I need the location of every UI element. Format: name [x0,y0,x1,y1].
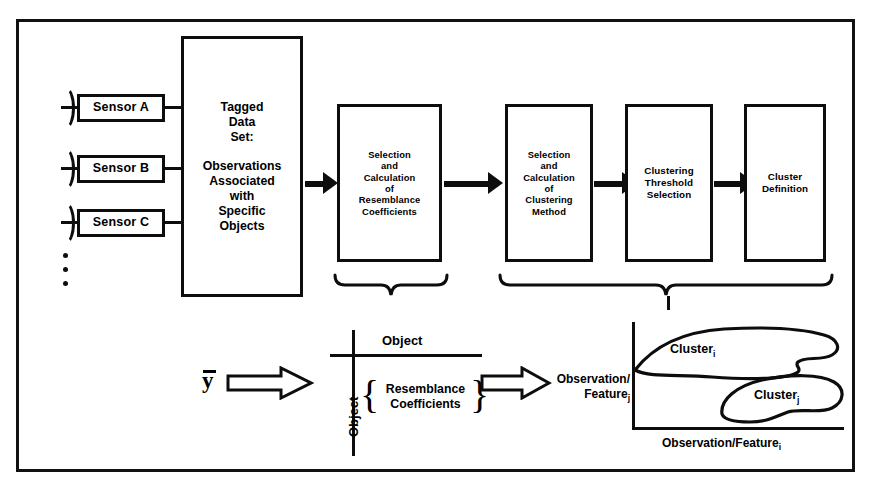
tagged-data-set-box[interactable]: Tagged Data Set: Observations Associated… [181,36,303,297]
matrix-vertical-axis [352,330,355,456]
brace-clustering-group [497,272,835,298]
proc2-line-5: Clustering [525,194,572,205]
sensor-box-c[interactable]: Sensor C [77,209,165,237]
sensor-ellipsis [63,253,68,286]
matrix-horizontal-axis [330,354,482,357]
cluster-j-text: Cluster [754,388,797,402]
cluster-label-j: Clusterj [754,388,799,405]
arrow-resemblance-to-method [444,172,504,194]
sensor-label-c: Sensor C [93,215,149,230]
cluster-i-text: Cluster [670,342,713,356]
outline-arrow-y-to-matrix [226,366,314,400]
plot-ylabel-line-2-wrap: Featurej [520,387,630,404]
proc1-line-3: Calculation [364,172,416,183]
tagged-line-2: Data [229,115,256,130]
brace-resemblance-group [332,272,450,298]
tagged-line-6: with [230,189,255,204]
proc2-line-6: Method [532,206,566,217]
tagged-line-1: Tagged [221,100,264,115]
proc1-line-1: Selection [368,149,411,160]
proc2-line-3: Calculation [523,172,575,183]
proc2-line-2: and [541,160,558,171]
tagged-line-8: Objects [219,219,264,234]
proc4-line-2: Definition [762,183,808,195]
proc1-line-6: Coefficients [362,206,417,217]
sensor-label-b: Sensor B [93,161,149,176]
vector-overbar-icon [203,370,216,373]
proc3-line-3: Selection [647,189,691,201]
cluster-blobs [632,322,847,432]
plot-ylabel-subscript: j [628,393,630,403]
matrix-side-label: Object [346,397,361,437]
proc3-line-2: Threshold [645,177,693,189]
plot-x-axis-label: Observation/Featurei [662,436,781,453]
vector-y-symbol: y [202,368,214,394]
tagged-line-4: Observations [203,159,282,174]
matrix-content-line-2: Coefficients [378,397,473,412]
plot-ylabel-line-1: Observation/ [520,372,630,387]
cluster-i-subscript: i [713,349,715,359]
cluster-j-subscript: j [797,395,799,405]
proc4-line-1: Cluster [768,171,802,183]
proc1-line-2: and [381,160,398,171]
tagged-line-3: Set: [230,130,253,145]
diagram-canvas: Sensor A Sensor B Sensor C Tagged Data S… [0,0,873,494]
matrix-content-line-1: Resemblance [378,382,473,397]
arrow-tagged-to-resemblance [305,172,338,194]
sensor-label-a: Sensor A [93,100,149,115]
cluster-label-i: Clusteri [670,342,715,359]
plot-xlabel-text: Observation/Feature [662,436,779,450]
matrix-top-label: Object [382,333,422,348]
proc2-line-1: Selection [528,149,571,160]
proc1-line-5: Resemblance [359,194,421,205]
sensor-box-a[interactable]: Sensor A [77,94,165,122]
process-box-clustering-method[interactable]: Selection and Calculation of Clustering … [505,104,593,262]
plot-xlabel-subscript: i [779,442,781,452]
tagged-line-5: Associated [209,174,275,189]
process-box-cluster-definition[interactable]: Cluster Definition [744,104,826,262]
sensor-box-b[interactable]: Sensor B [77,155,165,183]
proc3-line-1: Clustering [644,165,693,177]
cluster-plot: Clusteri Clusterj [632,322,847,432]
plot-y-axis-label: Observation/ Featurej [520,372,630,404]
process-box-resemblance[interactable]: Selection and Calculation of Resemblance… [337,104,442,262]
brace-stem [667,296,670,310]
resemblance-matrix: Object Object { Resemblance Coefficients… [330,330,505,460]
plot-ylabel-line-2: Feature [584,387,627,401]
proc1-line-4: of [385,183,394,194]
proc2-line-4: of [544,183,553,194]
matrix-content: Resemblance Coefficients [378,382,473,411]
process-box-threshold[interactable]: Clustering Threshold Selection [625,104,713,262]
tagged-line-7: Specific [218,204,265,219]
matrix-open-brace: { [360,375,379,415]
